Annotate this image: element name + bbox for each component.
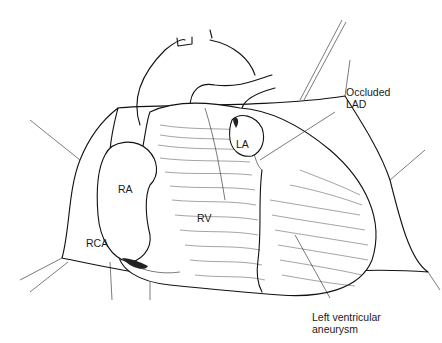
label-rv: RV (197, 212, 211, 224)
label-ra: RA (118, 183, 133, 195)
label-lv-aneurysm-line2: aneurysm (312, 323, 381, 335)
label-la: LA (236, 138, 249, 150)
label-occluded-lad: Occluded LAD (346, 86, 390, 110)
label-lv-aneurysm: Left ventricular aneurysm (312, 311, 381, 335)
label-rca: RCA (86, 237, 108, 249)
heart-illustration (0, 0, 442, 343)
label-occluded-lad-line1: Occluded (346, 86, 390, 98)
label-lv-aneurysm-line1: Left ventricular (312, 311, 381, 323)
label-occluded-lad-line2: LAD (346, 98, 390, 110)
